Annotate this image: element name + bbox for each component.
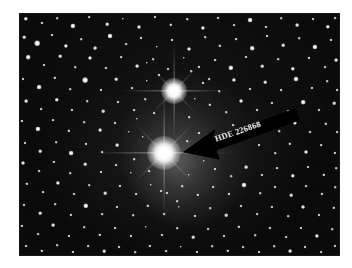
screenshot-root: HDE 226868 <box>0 0 352 268</box>
film-grain-overlay <box>19 13 340 256</box>
astronomy-photo-plate: HDE 226868 <box>19 13 340 256</box>
